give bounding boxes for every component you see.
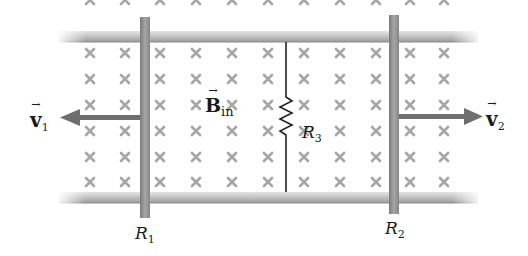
label-r2: R2	[385, 220, 405, 240]
magnetic-field-marks	[86, 0, 448, 4]
bottom-rail	[58, 192, 478, 203]
label-b-in: Bin	[205, 96, 234, 118]
top-rail	[58, 31, 478, 42]
diagram-canvas	[0, 0, 528, 256]
label-r1: R1	[135, 225, 155, 245]
rod-r2[interactable]	[389, 15, 399, 214]
label-v2: v2	[486, 109, 505, 132]
label-v1: v1	[30, 110, 49, 133]
label-r3: R3	[302, 124, 322, 144]
resistor-r3	[280, 42, 292, 192]
rod-r1[interactable]	[140, 17, 150, 218]
